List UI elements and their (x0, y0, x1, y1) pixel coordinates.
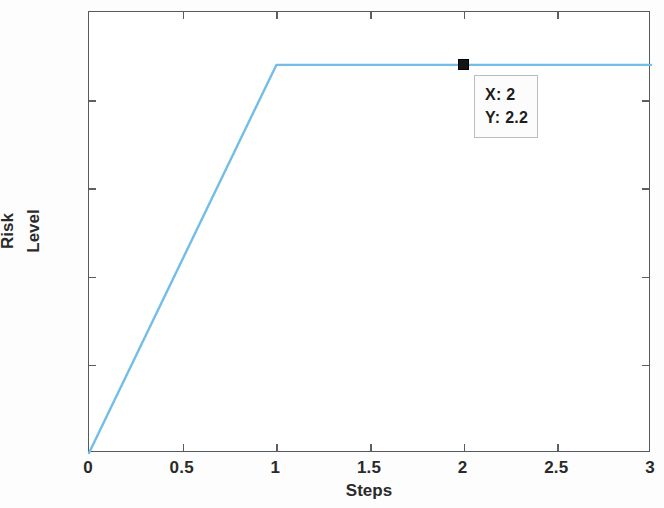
datatip-x-value: X: 2 (485, 83, 528, 106)
x-axis-title: Steps (346, 481, 392, 501)
data-series-risk-level (89, 12, 651, 453)
y-axis-title-line: Risk (0, 193, 18, 269)
x-tick-label: 2 (458, 458, 468, 478)
x-tick-label: 0.5 (170, 458, 194, 478)
x-tick-label: 2.5 (544, 458, 568, 478)
x-tick-label: 0 (83, 458, 93, 478)
x-tick-label: 1 (270, 458, 280, 478)
series-polyline (89, 65, 651, 453)
datatip-y-value: Y: 2.2 (485, 106, 528, 129)
plot-area (88, 11, 650, 452)
y-axis-title: Risk Level (0, 230, 50, 232)
y-axis-title-line: Level (24, 193, 44, 269)
datatip-box[interactable]: X: 2 Y: 2.2 (474, 75, 538, 138)
datatip-marker[interactable] (458, 59, 469, 70)
x-tick-label: 3 (645, 458, 655, 478)
figure-canvas: 0 0.5 1 1.5 2 2.5 0 0.5 1 1.5 2 2.5 3 St… (0, 0, 664, 508)
x-tick-label: 1.5 (357, 458, 381, 478)
